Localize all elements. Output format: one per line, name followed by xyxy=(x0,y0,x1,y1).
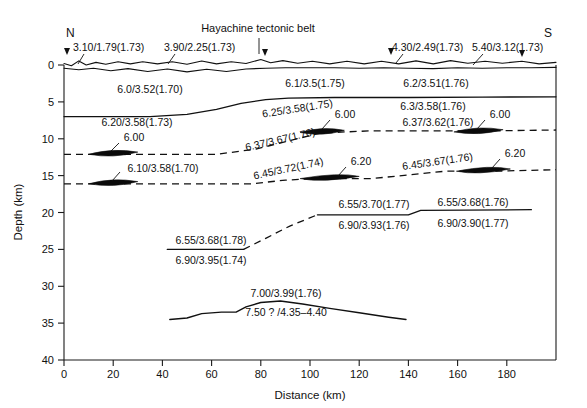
basement-line xyxy=(64,67,556,72)
x-tick-label: 0 xyxy=(61,368,67,380)
velocity-label: 6.20/3.58(1.73) xyxy=(101,116,172,128)
y-axis-ticks xyxy=(58,65,64,360)
lens-body xyxy=(89,150,138,156)
y-tick-label: 0 xyxy=(48,59,54,71)
y-tick-label: 5 xyxy=(48,96,54,108)
lens-label: 6.00 xyxy=(335,108,356,120)
y-axis-title: Depth (km) xyxy=(12,183,24,240)
velocity-label: 6.37/3.62(1.76) xyxy=(402,116,473,128)
velocity-label: 6.3/3.58(1.76) xyxy=(400,100,465,112)
lens-body xyxy=(300,175,359,181)
y-tick-label: 20 xyxy=(42,207,54,219)
x-tick-label: 20 xyxy=(107,368,119,380)
x-tick-labels: 0 20 40 60 80 100 120 140 160 180 xyxy=(61,368,516,380)
velocity-label: 6.45/3.67(1.76) xyxy=(401,150,473,172)
y-tick-labels: 0 5 10 15 20 25 30 35 40 xyxy=(42,59,54,366)
shot-point-marker-icon xyxy=(262,49,268,56)
velocity-label: 6.0/3.52(1.70) xyxy=(117,83,182,95)
velocity-label: 6.1/3.5(1.75) xyxy=(285,77,345,89)
velocity-label: 6.25/3.58(1.75) xyxy=(261,97,333,120)
x-tick-label: 120 xyxy=(350,368,368,380)
x-tick-label: 100 xyxy=(301,368,319,380)
south-label: S xyxy=(544,26,552,40)
lower-crust-transition-dashed xyxy=(244,215,318,250)
x-tick-label: 180 xyxy=(498,368,516,380)
x-axis-ticks xyxy=(64,360,507,366)
surface-label-leaders xyxy=(78,54,483,65)
y-tick-label: 25 xyxy=(42,243,54,255)
lens-body xyxy=(456,167,510,173)
velocity-label: 6.37/3.67(1.76) xyxy=(244,125,316,153)
lens-label: 6.20 xyxy=(351,155,372,167)
tectonic-belt-label: Hayachine tectonic belt xyxy=(201,22,315,34)
velocity-label: 3.10/1.79(1.73) xyxy=(73,41,144,53)
velocity-label: 6.10/3.58(1.70) xyxy=(127,162,198,174)
y-tick-label: 30 xyxy=(42,280,54,292)
lens-label: 6.00 xyxy=(124,131,145,143)
velocity-label: 7.00/3.99(1.76) xyxy=(250,287,321,299)
velocity-label: 6.90/3.90(1.77) xyxy=(437,217,508,229)
velocity-label: 6.55/3.70(1.77) xyxy=(338,198,409,210)
velocity-label: 6.55/3.68(1.78) xyxy=(175,234,246,246)
x-tick-label: 60 xyxy=(205,368,217,380)
lens-label: 6.20 xyxy=(505,147,526,159)
north-label: N xyxy=(66,26,75,40)
surface-velocity-labels: 3.10/1.79(1.73) 3.90/2.25(1.73) 4.30/2.4… xyxy=(73,41,543,53)
velocity-label: 6.90/3.93(1.76) xyxy=(338,219,409,231)
x-tick-label: 80 xyxy=(255,368,267,380)
topography-line xyxy=(64,60,556,66)
x-tick-label: 40 xyxy=(156,368,168,380)
y-tick-label: 35 xyxy=(42,317,54,329)
lens-body xyxy=(89,180,138,186)
shot-point-marker-icon xyxy=(64,48,70,55)
velocity-label: 7.50 ? /4.35–4.40 xyxy=(245,306,327,318)
lens-label: 6.00 xyxy=(490,108,511,120)
cross-section-plot: 0 5 10 15 20 25 30 35 40 0 20 40 60 80 1… xyxy=(0,0,587,408)
lower-crust-boundary-right xyxy=(317,210,531,215)
velocity-label: 6.55/3.68(1.76) xyxy=(437,196,508,208)
layer-velocity-labels: 6.0/3.52(1.70) 6.1/3.5(1.75) 6.2/3.51(1.… xyxy=(101,77,508,318)
x-tick-label: 140 xyxy=(399,368,417,380)
y-tick-label: 15 xyxy=(42,170,54,182)
y-tick-label: 40 xyxy=(42,354,54,366)
velocity-label: 6.2/3.51(1.76) xyxy=(403,77,468,89)
velocity-label: 4.30/2.49(1.73) xyxy=(392,41,463,53)
cross-section-figure: 0 5 10 15 20 25 30 35 40 0 20 40 60 80 1… xyxy=(0,0,587,408)
lens-body xyxy=(454,128,503,134)
velocity-label: 3.90/2.25(1.73) xyxy=(164,41,235,53)
velocity-label: 5.40/3.12(1.73) xyxy=(472,41,543,53)
velocity-label: 6.90/3.95(1.74) xyxy=(175,254,246,266)
x-axis-title: Distance (km) xyxy=(275,389,346,401)
x-tick-label: 160 xyxy=(448,368,466,380)
y-tick-label: 10 xyxy=(42,133,54,145)
